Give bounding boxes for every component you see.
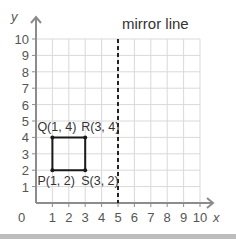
x-tick-label: 1 [49,210,56,225]
y-tick-label: 1 [22,180,29,195]
x-tick-label: 5 [114,210,121,225]
y-tick-label: 3 [22,147,29,162]
x-tick-label: 8 [164,210,171,225]
x-tick-label: 9 [180,210,187,225]
x-tick-label: 3 [82,210,89,225]
bottom-divider [0,234,236,239]
x-tick-label: 10 [193,210,207,225]
x-tick-label: 4 [98,210,105,225]
y-tick-label: 7 [22,81,29,96]
point-label-p: P(1, 2) [37,174,75,188]
x-tick-label: 7 [147,210,154,225]
y-tick-label: 4 [22,130,29,145]
y-tick-label: 6 [22,98,29,113]
point-label-q: Q(1, 4) [37,120,76,134]
point-label-r: R(3, 4) [81,120,119,134]
y-tick-label: 10 [15,32,29,47]
x-axis-label: x [212,210,220,225]
y-tick-label: 5 [22,114,29,129]
coordinate-grid-diagram: 1234567891012345678910 P(1, 2)Q(1, 4)R(3… [0,0,236,239]
y-tick-label: 8 [22,65,29,80]
y-tick-label: 2 [22,163,29,178]
point-label-s: S(3, 2) [81,174,119,188]
x-tick-label: 6 [131,210,138,225]
x-tick-label: 2 [65,210,72,225]
origin-label: 0 [18,210,25,225]
y-axis-label: y [10,9,19,24]
y-tick-label: 9 [22,48,29,63]
mirror-line-label: mirror line [122,15,189,32]
